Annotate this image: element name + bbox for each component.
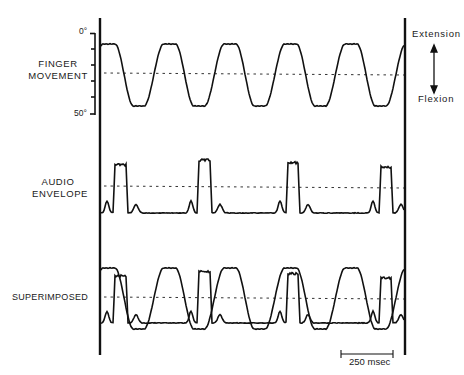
audio-midline (104, 186, 404, 188)
superimposed-label: SUPERIMPOSED (10, 291, 90, 303)
degree-0-label: 0° (79, 26, 87, 36)
audio-envelope-trace (101, 159, 404, 213)
finger-movement-label: FINGER MOVEMENT (28, 58, 88, 82)
superimposed-audio-trace (101, 271, 404, 323)
extension-label: Extension (412, 28, 461, 39)
time-scale-label: 250 msec (349, 356, 390, 367)
degree-50-label: 50° (74, 108, 87, 118)
finger-label-line-1: FINGER (28, 58, 88, 70)
finger-label-line-2: MOVEMENT (28, 70, 88, 82)
finger-midline (104, 73, 404, 75)
audio-envelope-label: AUDIO ENVELOPE (32, 176, 84, 200)
degree-scale-axis (90, 33, 95, 115)
extension-flexion-arrow (431, 45, 437, 93)
audio-label-line-1: AUDIO (32, 176, 84, 188)
audio-label-line-2: ENVELOPE (32, 188, 84, 200)
flexion-label: Flexion (418, 93, 454, 104)
superimposed-midline (104, 297, 404, 299)
